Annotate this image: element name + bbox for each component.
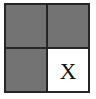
grid-cell-bottom-left[interactable] <box>6 49 46 91</box>
x-mark-label: X <box>60 60 77 83</box>
grid-cell-top-left[interactable] <box>6 5 46 47</box>
grid-frame: X <box>4 3 90 93</box>
grid-cell-top-right[interactable] <box>48 5 88 47</box>
grid-figure: X <box>0 0 96 99</box>
grid-cell-bottom-right[interactable]: X <box>48 49 88 91</box>
